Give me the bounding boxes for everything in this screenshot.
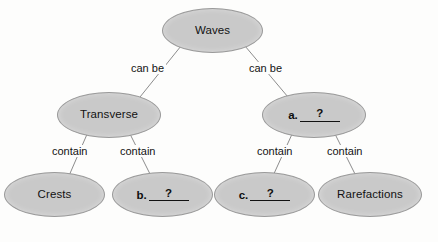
node-label: Rarefactions bbox=[337, 189, 403, 201]
blank-answer-field: a.? bbox=[288, 109, 340, 122]
question-mark: ? bbox=[300, 108, 340, 120]
blank-underline: ? bbox=[250, 188, 290, 201]
edge-label-blank-a-rarefactions: contain bbox=[325, 145, 364, 157]
concept-map-diagram: WavesTransversea.?Crestsb.?c.?Rarefactio… bbox=[0, 0, 438, 242]
node-label: Waves bbox=[195, 25, 230, 37]
question-mark: ? bbox=[250, 188, 290, 200]
blank-underline: ? bbox=[300, 109, 340, 122]
blank-answer-field: b.? bbox=[136, 188, 188, 201]
blank-letter: a. bbox=[288, 110, 298, 122]
node-crests[interactable]: Crests bbox=[4, 172, 105, 217]
blank-letter: c. bbox=[239, 190, 249, 202]
edge-label-waves-transverse: can be bbox=[129, 62, 166, 74]
node-rarefactions[interactable]: Rarefactions bbox=[318, 172, 422, 217]
node-label: Transverse bbox=[80, 109, 138, 121]
edge-label-waves-blank-a: can be bbox=[247, 62, 284, 74]
node-label: Crests bbox=[38, 189, 72, 201]
node-blank-c[interactable]: c.? bbox=[214, 172, 315, 217]
edge-label-blank-a-blank-c: contain bbox=[255, 145, 294, 157]
node-blank-a[interactable]: a.? bbox=[262, 92, 366, 138]
node-transverse[interactable]: Transverse bbox=[57, 92, 161, 138]
edge-label-transverse-crests: contain bbox=[50, 145, 89, 157]
node-blank-b[interactable]: b.? bbox=[112, 172, 213, 217]
node-waves[interactable]: Waves bbox=[162, 8, 263, 53]
question-mark: ? bbox=[149, 188, 189, 200]
blank-answer-field: c.? bbox=[239, 188, 291, 201]
blank-letter: b. bbox=[136, 190, 146, 202]
blank-underline: ? bbox=[149, 188, 189, 201]
edge-label-transverse-blank-b: contain bbox=[118, 145, 157, 157]
